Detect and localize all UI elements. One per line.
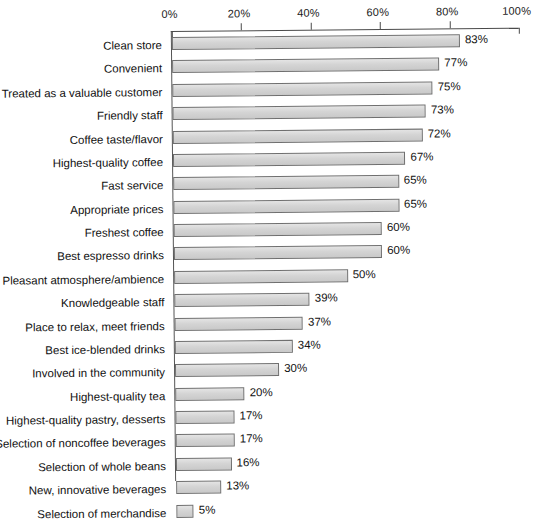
- bar-row: Knowledgeable staff39%: [0, 289, 543, 316]
- bar-value-label: 65%: [404, 173, 427, 187]
- bar-value-label: 20%: [250, 385, 273, 399]
- bar-row: Selection of merchandise5%: [2, 499, 543, 523]
- category-label: Coffee taste/flavor: [0, 132, 163, 149]
- bar-row: Freshest coffee60%: [0, 219, 543, 246]
- category-label: Best ice-blended drinks: [0, 342, 165, 359]
- bar: [174, 269, 348, 284]
- bar-value-label: 72%: [428, 126, 451, 140]
- category-label: Highest-quality coffee: [0, 155, 163, 172]
- axis-ticks-group: [0, 0, 540, 2]
- bar: [173, 128, 423, 143]
- bar-row: New, innovative beverages13%: [2, 476, 543, 503]
- bar-value-label: 39%: [315, 291, 338, 305]
- bar-row: Appropriate prices65%: [0, 195, 543, 222]
- bar-value-label: 60%: [387, 220, 410, 234]
- bar-row: Friendly staff73%: [0, 102, 542, 129]
- bar-value-label: 5%: [199, 502, 216, 516]
- category-label: Selection of noncoffee beverages: [0, 436, 166, 453]
- bars-group: Clean store83%Convenient77%Treated as a …: [0, 0, 540, 2]
- category-label: Appropriate prices: [0, 202, 164, 219]
- bar: [172, 58, 439, 74]
- category-label: Highest-quality tea: [0, 389, 165, 406]
- bar: [175, 363, 279, 377]
- category-label: Selection of merchandise: [0, 506, 166, 523]
- bar: [173, 105, 426, 120]
- category-label: Selection of whole beans: [0, 459, 166, 476]
- bar-row: Place to relax, meet friends37%: [1, 312, 543, 339]
- axis-tick-label: 80%: [436, 5, 459, 17]
- bar: [175, 387, 245, 401]
- bar-value-label: 67%: [410, 149, 433, 163]
- bar-value-label: 30%: [284, 361, 307, 375]
- bar-row: Coffee taste/flavor72%: [0, 125, 542, 152]
- bar-row: Clean store83%: [0, 31, 541, 58]
- bar-value-label: 75%: [438, 79, 461, 93]
- bar-row: Selection of whole beans16%: [2, 452, 543, 479]
- bar: [176, 457, 232, 471]
- axis-tick-40pct: [311, 23, 312, 30]
- category-label: Place to relax, meet friends: [0, 319, 165, 336]
- bar: [174, 293, 309, 307]
- category-label: Convenient: [0, 61, 162, 78]
- category-label: Friendly staff: [0, 108, 163, 125]
- bar-value-label: 77%: [444, 56, 467, 70]
- category-label: Treated as a valuable customer: [0, 85, 162, 102]
- bar-value-label: 73%: [431, 102, 454, 116]
- bar: [172, 81, 432, 96]
- bar-row: Highest-quality tea20%: [1, 382, 543, 409]
- bar-row: Selection of noncoffee beverages17%: [2, 429, 543, 456]
- bar-row: Highest-quality pastry, desserts17%: [1, 406, 543, 433]
- axis-tick-labels-group: 0%20%40%60%80%100%: [0, 0, 540, 2]
- bar-value-label: 65%: [404, 196, 427, 210]
- category-label: Highest-quality pastry, desserts: [0, 412, 166, 429]
- bar-value-label: 50%: [353, 267, 376, 281]
- bar: [175, 411, 234, 425]
- bar-row: Fast service65%: [0, 172, 542, 199]
- bar-row: Convenient77%: [0, 55, 541, 82]
- bar-value-label: 13%: [226, 479, 249, 493]
- category-label: Best espresso drinks: [0, 249, 164, 266]
- bar-value-label: 60%: [387, 243, 410, 257]
- bar: [176, 434, 235, 448]
- axis-tick-60pct: [380, 22, 381, 29]
- bar-value-label: 37%: [308, 314, 331, 328]
- category-label: Involved in the community: [0, 365, 165, 382]
- plot-area: 0%20%40%60%80%100% Clean store83%Conveni…: [0, 0, 543, 494]
- bar-value-label: 34%: [298, 338, 321, 352]
- bar: [173, 199, 399, 214]
- bar-row: Highest-quality coffee67%: [0, 148, 542, 175]
- bar: [174, 245, 382, 260]
- category-label: Fast service: [0, 178, 163, 195]
- bar-row: Best ice-blended drinks34%: [1, 335, 543, 362]
- bar: [175, 316, 303, 330]
- category-label: Knowledgeable staff: [0, 295, 164, 312]
- axis-tick-label: 100%: [502, 5, 531, 17]
- bar-row: Involved in the community30%: [1, 359, 543, 386]
- category-label: Freshest coffee: [0, 225, 164, 242]
- bar: [173, 175, 399, 190]
- bar-value-label: 17%: [239, 408, 262, 422]
- bar-row: Best espresso drinks60%: [0, 242, 543, 269]
- axis-tick-20pct: [241, 23, 242, 30]
- bar-row: Pleasant atmosphere/ambience50%: [0, 265, 543, 292]
- bar: [176, 481, 221, 494]
- bar-row: Treated as a valuable customer75%: [0, 78, 541, 105]
- bar: [175, 340, 293, 354]
- category-label: Clean store: [0, 38, 162, 55]
- category-label: New, innovative beverages: [0, 482, 166, 499]
- bar-value-label: 17%: [240, 432, 263, 446]
- axis-tick-label: 40%: [297, 7, 320, 19]
- bar: [173, 152, 406, 167]
- bar-value-label: 16%: [236, 455, 259, 469]
- bar: [172, 34, 460, 50]
- category-label: Pleasant atmosphere/ambience: [0, 272, 164, 289]
- axis-tick-label: 60%: [366, 6, 389, 18]
- bar: [174, 222, 382, 237]
- bar-value-label: 83%: [465, 32, 488, 46]
- bar: [176, 504, 193, 517]
- axis-tick-label: 0%: [161, 8, 177, 20]
- axis-tick-label: 20%: [228, 7, 251, 19]
- axis-tick-80pct: [449, 21, 450, 28]
